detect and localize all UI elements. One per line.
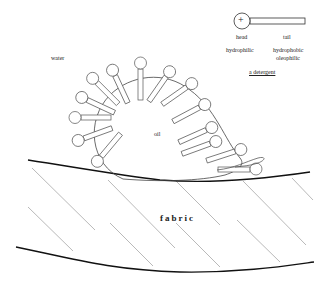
plus-symbol: + bbox=[238, 15, 244, 25]
detergent-molecule bbox=[170, 96, 213, 126]
label-oil: oil bbox=[154, 131, 160, 137]
detergent-molecule bbox=[69, 112, 111, 124]
fabric-top-edge bbox=[28, 160, 310, 181]
detergent-molecule bbox=[105, 62, 134, 105]
label-hydrophobic: hydrophobic bbox=[273, 47, 303, 53]
fabric-bottom-edge bbox=[16, 247, 314, 272]
label-detergent: a detergent bbox=[249, 69, 275, 75]
diagram-canvas: + head tail hydrophilic hydrophobic oleo… bbox=[0, 0, 329, 286]
label-tail: tail bbox=[283, 34, 291, 40]
detergent-molecules bbox=[69, 57, 262, 175]
label-water: water bbox=[51, 55, 64, 61]
label-oleophilic: oleophilic bbox=[276, 55, 300, 61]
oil-droplet-outline bbox=[94, 77, 242, 180]
label-fabric: fabric bbox=[160, 214, 195, 223]
diagram-svg bbox=[0, 0, 329, 286]
detergent-molecule bbox=[135, 57, 147, 100]
label-hydrophilic: hydrophilic bbox=[226, 47, 254, 53]
detergent-molecule bbox=[70, 123, 114, 149]
legend-detergent-molecule bbox=[234, 13, 305, 29]
label-head: head bbox=[236, 34, 247, 40]
